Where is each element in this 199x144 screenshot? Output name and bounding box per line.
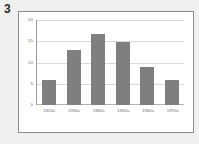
x-tick-label-1920s: 1920s	[37, 108, 62, 118]
x-tick-label-1940s: 1940s	[86, 108, 111, 118]
figure-number-label: 3	[4, 3, 11, 15]
x-axis-labels: 1920s 1930s 1940s 1950s 1960s 1970s	[37, 108, 185, 118]
bar-1930s	[67, 50, 81, 105]
y-tick-label-5: 5	[31, 82, 33, 86]
figure-container: 3 20 15 10 5 0	[0, 0, 199, 144]
plot-area: 20 15 10 5 0	[36, 20, 184, 105]
x-tick-label-1970s: 1970s	[160, 108, 185, 118]
bar-slot	[86, 20, 111, 105]
x-tick-label-1930s: 1930s	[62, 108, 87, 118]
chart-frame: 20 15 10 5 0	[18, 11, 194, 133]
bar-1920s	[42, 80, 56, 105]
y-tick-label-20: 20	[28, 18, 33, 22]
bar-1950s	[116, 42, 130, 105]
bar-1970s	[165, 80, 179, 105]
bar-1940s	[91, 34, 105, 105]
y-tick-label-10: 10	[28, 60, 33, 64]
bar-group	[37, 20, 184, 105]
x-tick-label-1950s: 1950s	[111, 108, 136, 118]
y-tick-label-15: 15	[28, 39, 33, 43]
bar-slot	[111, 20, 136, 105]
bar-slot	[62, 20, 87, 105]
bar-1960s	[140, 67, 154, 105]
x-tick-label-1960s: 1960s	[136, 108, 161, 118]
bar-slot	[37, 20, 62, 105]
bar-slot	[135, 20, 160, 105]
y-tick-label-0: 0	[31, 102, 33, 106]
bar-slot	[160, 20, 185, 105]
